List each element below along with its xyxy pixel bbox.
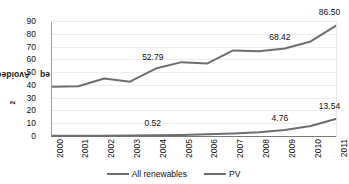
y-axis-tick-label: 0 bbox=[18, 132, 36, 141]
y-axis-tick-label: 80 bbox=[18, 30, 36, 39]
y-axis-tick-label: 30 bbox=[18, 93, 36, 102]
y-axis-tick-labels: 9080706050403020100 bbox=[16, 0, 36, 184]
y-axis-tick-label: 70 bbox=[18, 42, 36, 51]
y-axis-tick-label: 90 bbox=[18, 17, 36, 26]
y-axis-title-subscript: 2 bbox=[9, 101, 16, 105]
data-labels-layer: 52.7968.4286.500.524.7613.54 bbox=[51, 21, 336, 136]
x-axis-tick-label: 2007 bbox=[236, 139, 245, 158]
chart-legend: All renewablesPV bbox=[0, 167, 347, 181]
y-axis-tick-label: 40 bbox=[18, 81, 36, 90]
x-axis-tick-label: 2002 bbox=[107, 139, 116, 158]
x-axis-tick-label: 2003 bbox=[133, 139, 142, 158]
legend-line-swatch bbox=[204, 173, 226, 176]
x-axis-tick-label: 2005 bbox=[185, 139, 194, 158]
x-axis-tick-label: 2009 bbox=[288, 139, 297, 158]
data-point-label: 86.50 bbox=[319, 8, 340, 17]
x-axis-tick-label: 2008 bbox=[262, 139, 271, 158]
legend-label: PV bbox=[229, 170, 240, 179]
data-point-label: 52.79 bbox=[142, 52, 163, 61]
y-axis-tick-label: 50 bbox=[18, 68, 36, 77]
data-point-label: 4.76 bbox=[272, 113, 289, 122]
data-point-label: 13.54 bbox=[319, 101, 340, 110]
data-point-label: 68.42 bbox=[269, 32, 290, 41]
y-axis-tick-label: 20 bbox=[18, 106, 36, 115]
legend-item[interactable]: PV bbox=[204, 170, 240, 179]
y-axis-tick-label: 10 bbox=[18, 119, 36, 128]
y-axis-tick-label: 60 bbox=[18, 55, 36, 64]
x-axis-tick-label: 2010 bbox=[314, 139, 323, 158]
data-point-label: 0.52 bbox=[144, 119, 161, 128]
x-axis-tick-labels: 2000200120022003200420052006200720082009… bbox=[51, 137, 336, 167]
x-axis-tick-label: 2001 bbox=[81, 139, 90, 158]
legend-item[interactable]: All renewables bbox=[107, 170, 187, 179]
legend-line-swatch bbox=[107, 173, 129, 176]
x-axis-tick-label: 2011 bbox=[340, 139, 349, 157]
x-axis-tick-label: 2006 bbox=[210, 139, 219, 158]
x-axis-tick-label: 2000 bbox=[56, 139, 65, 158]
legend-label: All renewables bbox=[132, 170, 187, 179]
x-axis-tick-label: 2004 bbox=[159, 139, 168, 158]
